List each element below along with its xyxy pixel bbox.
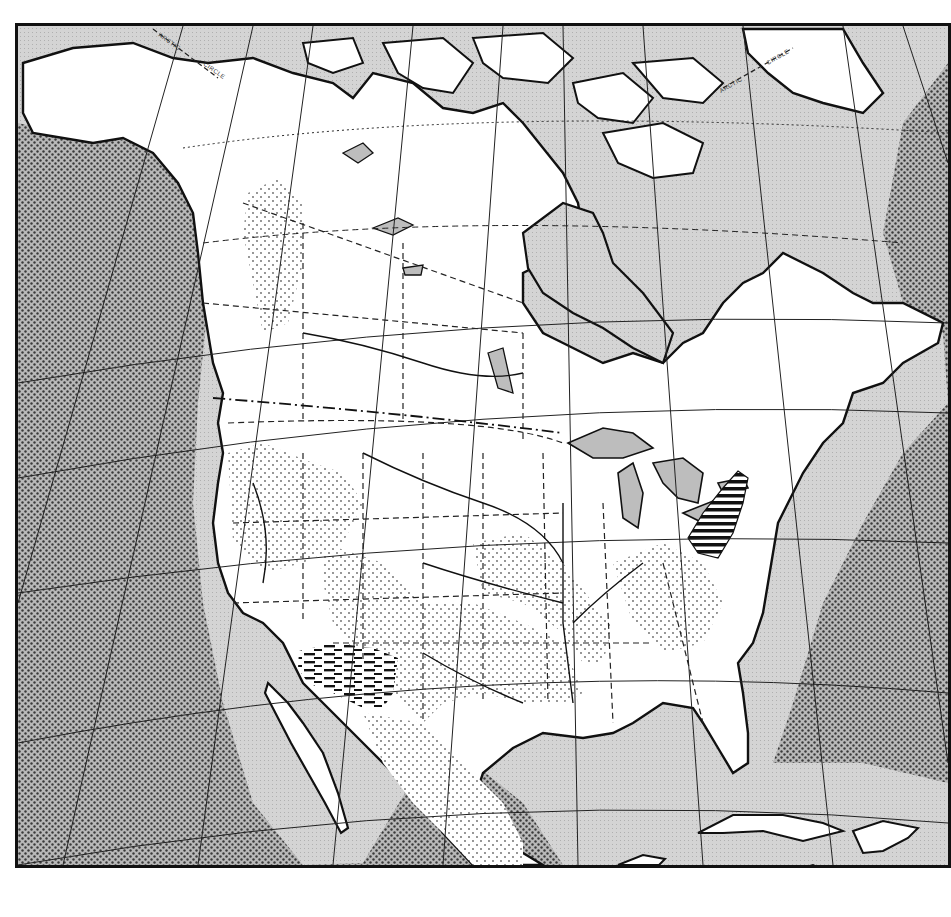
map-frame: ARCTIC CIRCLE ARCTIC CIRCLE — [15, 23, 951, 868]
north-america-map: ARCTIC CIRCLE ARCTIC CIRCLE — [18, 26, 948, 865]
